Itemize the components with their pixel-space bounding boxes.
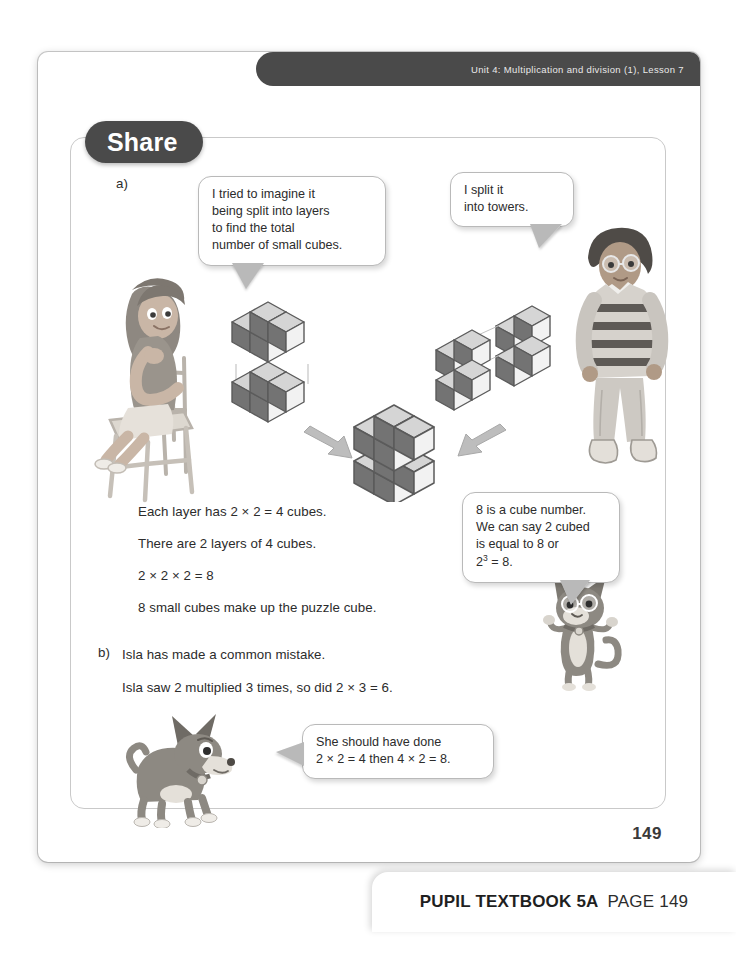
bubble-dog-tail	[278, 743, 304, 765]
unit-header-label: Unit 4: Multiplication and division (1),…	[471, 64, 684, 75]
arrow-right-down-icon	[300, 424, 362, 474]
page-number: 149	[632, 824, 662, 844]
speech-bubble-dog: She should have done 2 × 2 = 4 then 4 × …	[302, 724, 494, 779]
bubble-cat-line-3: is equal to 8 or	[476, 536, 606, 553]
speech-bubble-boy: I split it into towers.	[450, 172, 574, 227]
part-a-label: a)	[116, 176, 128, 191]
footer-page-reference: PAGE 149	[608, 892, 689, 912]
bubble-dog-line-1: She should have done	[316, 734, 480, 751]
speech-bubble-girl: I tried to imagine it being split into l…	[198, 176, 386, 266]
part-b-label: b)	[98, 645, 110, 660]
cube-diagram-layers	[228, 292, 348, 432]
page-sheet: Unit 4: Multiplication and division (1),…	[38, 52, 700, 862]
bubble-boy-line-1: I split it	[464, 182, 560, 199]
share-section-pill: Share	[85, 121, 203, 163]
unit-header-bar: Unit 4: Multiplication and division (1),…	[256, 52, 700, 86]
bubble-dog-line-2: 2 × 2 = 4 then 4 × 2 = 8.	[316, 751, 480, 768]
working-line-2: There are 2 layers of 4 cubes.	[138, 534, 316, 553]
bubble-girl-line-3: to find the total	[212, 220, 372, 237]
bubble-cat-base: 2	[476, 556, 483, 570]
bubble-cat-tail	[561, 581, 589, 604]
share-section-title: Share	[107, 128, 177, 157]
bubble-girl-line-1: I tried to imagine it	[212, 186, 372, 203]
cube-diagram-assembled	[348, 394, 458, 502]
bubble-girl-tail	[233, 264, 263, 288]
arrow-left-down-icon	[448, 422, 510, 472]
bubble-girl-line-4: number of small cubes.	[212, 237, 372, 254]
working-line-4: 8 small cubes make up the puzzle cube.	[138, 598, 376, 617]
bubble-boy-line-2: into towers.	[464, 199, 560, 216]
bubble-boy-tail	[531, 225, 561, 247]
working-line-1: Each layer has 2 × 2 = 4 cubes.	[138, 502, 327, 521]
bubble-cat-line-4: 23 = 8.	[476, 553, 606, 571]
illustration-girl-on-chair	[88, 260, 220, 512]
bubble-cat-line-1: 8 is a cube number.	[476, 502, 606, 519]
illustration-dog	[114, 712, 260, 828]
textbook-page-screenshot: Unit 4: Multiplication and division (1),…	[0, 0, 736, 964]
part-b-line-2: Isla saw 2 multiplied 3 times, so did 2 …	[122, 678, 393, 697]
working-line-3: 2 × 2 × 2 = 8	[138, 566, 214, 585]
footer-caption-strip: PUPIL TEXTBOOK 5A PAGE 149	[372, 872, 736, 932]
part-b-line-1: Isla has made a common mistake.	[122, 645, 325, 664]
bubble-cat-equals: = 8.	[488, 556, 513, 570]
footer-book-title: PUPIL TEXTBOOK 5A	[420, 892, 599, 912]
speech-bubble-cat: 8 is a cube number. We can say 2 cubed i…	[462, 492, 620, 583]
bubble-cat-line-2: We can say 2 cubed	[476, 519, 606, 536]
bubble-girl-line-2: being split into layers	[212, 203, 372, 220]
